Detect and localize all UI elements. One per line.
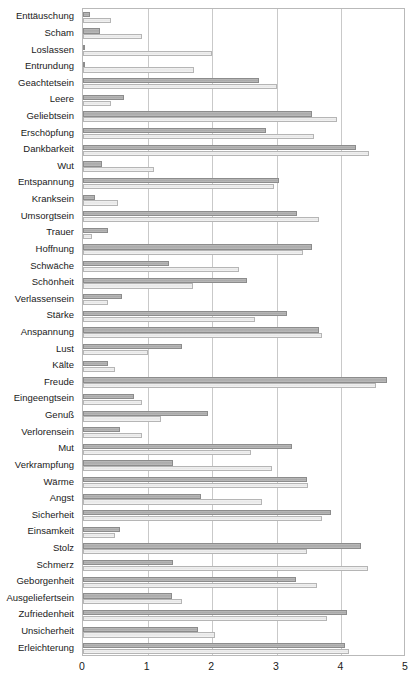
category-label: Trauer [46, 226, 74, 237]
bar-row [83, 624, 404, 641]
category-label: Leere [50, 93, 74, 104]
bar-series-2 [83, 317, 255, 322]
bar-series-2 [83, 466, 272, 471]
bar-series-2 [83, 400, 142, 405]
bar-row [83, 175, 404, 192]
category-label: Ausgeliefertsein [6, 592, 74, 603]
bar-series-1 [83, 211, 297, 216]
category-label: Schönheit [32, 276, 74, 287]
bar-series-1 [83, 228, 108, 233]
bar-series-1 [83, 261, 169, 266]
bar-series-1 [83, 510, 331, 515]
horizontal-bar-chart: EnttäuschungSchamLoslassenEntrundungGeac… [0, 0, 413, 693]
bar-row [83, 192, 404, 209]
x-tick-label: 0 [79, 660, 85, 672]
bar-row [83, 557, 404, 574]
category-label: Anspannung [21, 326, 74, 337]
bar-row [83, 424, 404, 441]
category-label: Entspannung [18, 176, 74, 187]
category-label: Schmerz [37, 559, 74, 570]
category-label: Geachtetsein [18, 77, 74, 88]
bar-series-2 [83, 433, 142, 438]
bar-series-2 [83, 51, 212, 56]
bar-series-1 [83, 411, 208, 416]
bar-row [83, 640, 404, 657]
bar-row [83, 258, 404, 275]
bar-series-1 [83, 593, 172, 598]
category-label: Wut [57, 160, 74, 171]
category-label: Dankbarkeit [23, 143, 74, 154]
bar-series-1 [83, 28, 100, 33]
category-label: Mut [58, 442, 74, 453]
bar-series-2 [83, 283, 193, 288]
category-label: Erschöpfung [21, 127, 74, 138]
bar-row [83, 574, 404, 591]
bar-series-2 [83, 383, 376, 388]
bar-row [83, 291, 404, 308]
bar-series-1 [83, 577, 296, 582]
bar-series-2 [83, 250, 303, 255]
category-label: Loslassen [31, 44, 74, 55]
bar-series-2 [83, 599, 182, 604]
bar-row [83, 524, 404, 541]
bar-series-1 [83, 95, 124, 100]
bar-row [83, 607, 404, 624]
bar-series-1 [83, 494, 201, 499]
category-label: Freude [44, 376, 74, 387]
bar-series-2 [83, 134, 314, 139]
bar-row [83, 125, 404, 142]
bar-series-1 [83, 427, 120, 432]
bar-row [83, 159, 404, 176]
bar-series-2 [83, 416, 161, 421]
category-label: Wärme [43, 476, 74, 487]
bar-series-1 [83, 610, 347, 615]
bar-series-1 [83, 45, 85, 50]
bar-series-1 [83, 78, 259, 83]
bar-series-1 [83, 643, 345, 648]
bar-series-1 [83, 278, 247, 283]
bar-series-2 [83, 516, 322, 521]
category-label: Scham [44, 27, 74, 38]
bar-row [83, 441, 404, 458]
bar-series-2 [83, 367, 115, 372]
category-label: Hoffnung [36, 243, 74, 254]
bar-series-2 [83, 184, 274, 189]
bar-series-1 [83, 178, 279, 183]
category-label: Kälte [52, 359, 74, 370]
bar-series-2 [83, 151, 369, 156]
bar-row [83, 391, 404, 408]
bar-series-1 [83, 627, 198, 632]
bar-series-2 [83, 583, 317, 588]
bar-series-1 [83, 12, 90, 17]
bar-series-2 [83, 18, 111, 23]
bar-series-2 [83, 483, 308, 488]
bar-row [83, 109, 404, 126]
category-label: Unsicherheit [21, 625, 74, 636]
bar-series-1 [83, 377, 387, 382]
bar-row [83, 458, 404, 475]
category-label: Erleichterung [18, 642, 74, 653]
bar-series-2 [83, 101, 111, 106]
bar-series-2 [83, 499, 262, 504]
bar-row [83, 375, 404, 392]
bar-series-1 [83, 327, 319, 332]
bar-series-2 [83, 350, 148, 355]
bar-series-2 [83, 84, 277, 89]
category-label: Enttäuschung [16, 10, 74, 21]
bar-series-1 [83, 477, 307, 482]
bar-series-1 [83, 543, 361, 548]
bar-row [83, 308, 404, 325]
category-label: Lust [56, 343, 74, 354]
bar-row [83, 491, 404, 508]
x-tick-label: 3 [273, 660, 279, 672]
bar-row [83, 325, 404, 342]
x-tick-label: 2 [208, 660, 214, 672]
bar-series-2 [83, 200, 118, 205]
bar-series-2 [83, 267, 239, 272]
bar-series-1 [83, 244, 312, 249]
category-label: Verlorensein [21, 426, 74, 437]
bar-row [83, 9, 404, 26]
bar-series-1 [83, 294, 122, 299]
bar-row [83, 142, 404, 159]
bar-row [83, 242, 404, 259]
